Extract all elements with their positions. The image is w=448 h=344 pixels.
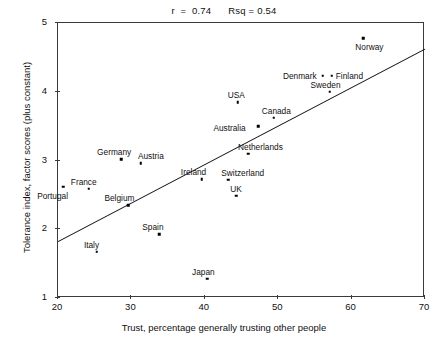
data-point [331,75,334,78]
data-point-label: Switzerland [221,169,264,177]
data-point-label: Finland [336,72,363,80]
data-point [96,251,99,254]
data-point [120,158,123,161]
data-point [322,75,325,78]
x-tick-label: 60 [336,301,366,312]
data-point-label: France [71,178,97,186]
data-point [206,278,209,281]
y-tick-label: 4 [25,85,47,96]
y-tick-label: 2 [25,222,47,233]
data-point-label: Denmark [283,72,317,80]
data-point [227,179,230,182]
y-tick-label: 3 [25,154,47,165]
data-point-label: Portugal [37,192,68,200]
chart-title: r = 0.74 Rsq = 0.54 [0,5,448,16]
data-point-label: USA [228,91,245,99]
data-point [88,187,91,190]
data-point [127,204,130,207]
data-point [235,194,238,197]
data-point [257,125,260,128]
data-point [247,152,250,155]
data-point-label: Spain [142,223,163,231]
x-axis-title: Trust, percentage generally trusting oth… [0,322,448,333]
data-point-label: Sweden [311,81,341,89]
x-tick-label: 50 [262,301,292,312]
data-point [328,91,331,94]
data-point [273,117,276,120]
data-point-label: Austria [138,152,164,160]
data-point-label: UK [230,185,242,193]
regression-line-layer [58,23,425,298]
data-point-label: Japan [192,268,215,276]
data-point-label: Italy [84,241,99,249]
data-point [362,37,365,40]
data-point-label: Canada [262,107,291,115]
data-point [237,101,240,104]
x-tick-label: 30 [115,301,145,312]
data-point [140,162,143,165]
data-point-label: Belgium [104,194,134,202]
data-point [62,185,65,188]
data-point [201,178,204,181]
data-point-label: Netherlands [238,143,283,151]
x-tick-label: 20 [42,301,72,312]
x-tick-label: 40 [189,301,219,312]
plot-area: PortugalFranceItalyGermanyBelgiumAustria… [57,22,424,297]
x-tick-label: 70 [409,301,439,312]
data-point-label: Germany [97,148,131,156]
data-point-label: Ireland [181,168,206,176]
scatter-plot-figure: r = 0.74 Rsq = 0.54 Tolerance index, fac… [0,0,448,344]
data-point-label: Australia [213,124,245,132]
data-point-label: Norway [355,43,383,51]
y-tick-label: 5 [25,16,47,27]
data-point [158,233,161,236]
